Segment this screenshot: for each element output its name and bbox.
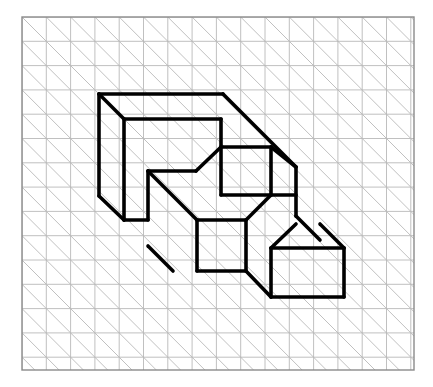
screenshot-root — [0, 0, 433, 387]
grid-panel-background — [22, 17, 414, 370]
isometric-drawing-canvas — [0, 0, 433, 387]
